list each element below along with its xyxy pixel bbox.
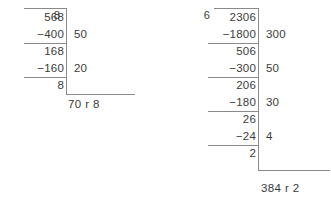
subtraction-rule-step-2 [24,77,67,78]
remainder: 8 [10,79,64,91]
partial-quotient-step-1: 50 [74,28,87,40]
subtrahend-step-1: −1800 [198,28,256,40]
final-answer: 384 r 2 [261,182,300,194]
difference-step-1: 168 [10,45,64,57]
vertical-divider-rule [66,9,67,94]
subtraction-rule-step-1 [208,43,259,44]
worksheet: 8 568 −400 50 168 −160 20 8 70 r 8 6 [0,0,331,207]
subtrahend-step-1: −400 [10,28,64,40]
difference-step-1: 506 [198,45,256,57]
dividend-overbar [214,8,259,9]
subtrahend-step-4: −24 [198,130,256,142]
subtraction-rule-step-3 [208,111,259,112]
partial-quotient-step-1: 300 [266,28,286,40]
partial-quotient-step-2: 50 [266,62,279,74]
partial-quotient-step-2: 20 [74,62,87,74]
remainder: 2 [198,147,256,159]
answer-rule [66,94,135,95]
subtrahend-step-2: −300 [198,62,256,74]
difference-step-3: 26 [198,113,256,125]
final-answer: 70 r 8 [68,98,100,110]
subtrahend-step-2: −160 [10,62,64,74]
subtraction-rule-step-2 [208,77,259,78]
subtrahend-step-3: −180 [198,96,256,108]
partial-quotient-step-4: 4 [266,130,273,142]
dividend: 568 [10,11,64,23]
partial-quotient-step-3: 30 [266,96,279,108]
dividend: 2306 [198,11,256,23]
subtraction-rule-step-1 [24,43,67,44]
dividend-overbar [24,8,67,9]
difference-step-2: 206 [198,79,256,91]
subtraction-rule-step-4 [208,145,259,146]
answer-rule [258,170,330,171]
